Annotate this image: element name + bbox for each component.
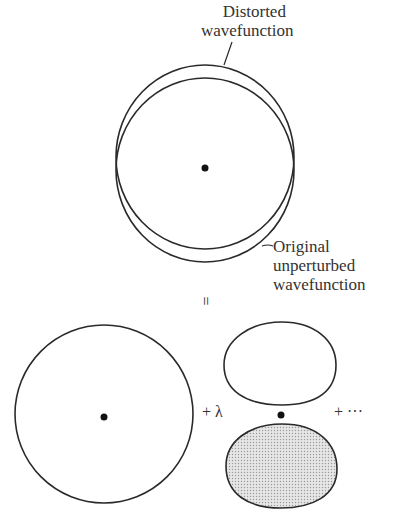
plus-lambda: + λ bbox=[202, 403, 223, 421]
p-orbital-upper-lobe bbox=[224, 322, 336, 405]
original-label-line2: unperturbed bbox=[273, 256, 366, 275]
equals-sign: = bbox=[196, 296, 214, 305]
distorted-label-line1: Distorted bbox=[201, 2, 294, 21]
original-leader-line bbox=[262, 245, 273, 246]
distorted-label: Distorted wavefunction bbox=[201, 2, 294, 40]
p-orbital-lower-lobe bbox=[226, 424, 337, 508]
distorted-label-line2: wavefunction bbox=[201, 21, 294, 40]
plus-ellipsis: + ··· bbox=[334, 403, 363, 421]
distorted-wavefunction-curve bbox=[116, 65, 294, 249]
nucleus-dot-left bbox=[101, 414, 108, 421]
nucleus-dot-right bbox=[278, 412, 285, 419]
original-label-line1: Original bbox=[273, 237, 366, 256]
distorted-leader-line bbox=[224, 42, 232, 65]
original-label: Original unperturbed wavefunction bbox=[273, 237, 366, 294]
original-label-line3: wavefunction bbox=[273, 275, 366, 294]
nucleus-dot-top bbox=[202, 165, 209, 172]
